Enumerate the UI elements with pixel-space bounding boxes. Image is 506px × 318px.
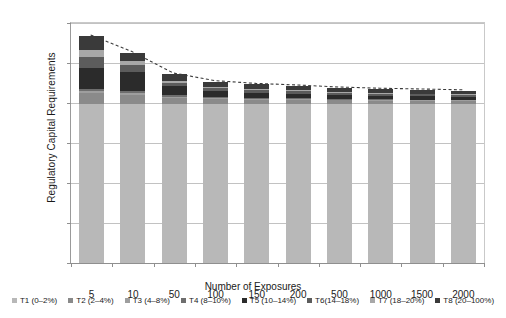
x-tick-mark xyxy=(443,263,444,267)
legend-label: T1 (0–2%) xyxy=(20,296,57,305)
legend-swatch-icon xyxy=(242,298,247,303)
bar-segment xyxy=(162,104,187,263)
legend-item[interactable]: T6(14–18%) xyxy=(307,296,359,305)
legend-swatch-icon xyxy=(370,298,375,303)
legend-item[interactable]: T3 (4–8%) xyxy=(125,296,170,305)
bar-segment xyxy=(327,104,352,263)
legend-item[interactable]: T7 (18–20%) xyxy=(370,296,424,305)
bar-segment xyxy=(203,104,228,263)
bar-segment xyxy=(286,104,311,263)
x-tick-mark xyxy=(112,263,113,267)
bar-segment xyxy=(162,74,187,81)
x-axis-title: Number of Exposures xyxy=(0,281,506,292)
bar-column[interactable] xyxy=(79,23,104,263)
x-tick-mark xyxy=(278,263,279,267)
x-tick-mark xyxy=(401,263,402,267)
bar-stack xyxy=(286,86,311,263)
bar-stack xyxy=(368,89,393,263)
x-tick-mark xyxy=(319,263,320,267)
bar-segment xyxy=(79,57,104,68)
x-tick-mark xyxy=(360,263,361,267)
bar-stack xyxy=(203,82,228,263)
y-tick-mark xyxy=(67,63,71,64)
legend-label: T7 (18–20%) xyxy=(378,296,424,305)
legend-label: T5 (10–14%) xyxy=(250,296,296,305)
bar-segment xyxy=(120,65,145,72)
x-tick-mark xyxy=(71,263,72,267)
plot-area: 0%2%4%6%8%10%12% 51050100150200500100015… xyxy=(70,22,485,263)
y-axis-title: Regulatory Capital Requirements xyxy=(46,3,57,253)
bar-segment xyxy=(368,104,393,263)
bar-column[interactable] xyxy=(120,23,145,263)
legend-swatch-icon xyxy=(181,298,186,303)
bar-stack xyxy=(120,53,145,263)
bar-stack xyxy=(451,91,476,263)
bar-column[interactable] xyxy=(203,23,228,263)
bar-stack xyxy=(162,74,187,263)
bar-segment xyxy=(79,104,104,263)
bar-segment xyxy=(79,68,104,89)
legend-swatch-icon xyxy=(125,298,130,303)
bar-segment xyxy=(120,72,145,91)
legend-item[interactable]: T2 (2–4%) xyxy=(68,296,113,305)
bar-segment xyxy=(451,104,476,263)
legend-swatch-icon xyxy=(307,298,312,303)
bar-column[interactable] xyxy=(410,23,435,263)
x-tick-mark xyxy=(195,263,196,267)
bar-segment xyxy=(120,53,145,61)
stacked-bar-chart: Regulatory Capital Requirements 0%2%4%6%… xyxy=(0,0,506,318)
x-tick-mark xyxy=(236,263,237,267)
bar-column[interactable] xyxy=(368,23,393,263)
bar-column[interactable] xyxy=(327,23,352,263)
bar-segment xyxy=(244,104,269,263)
bar-segment xyxy=(79,93,104,104)
bar-segment xyxy=(79,50,104,57)
bar-stack xyxy=(79,36,104,263)
legend-swatch-icon xyxy=(12,298,17,303)
y-tick-mark xyxy=(67,183,71,184)
bar-stack xyxy=(410,90,435,263)
bar-column[interactable] xyxy=(451,23,476,263)
bar-segment xyxy=(410,104,435,263)
bar-stack xyxy=(244,84,269,263)
bar-segment xyxy=(162,86,187,95)
bar-segment xyxy=(120,104,145,263)
legend-label: T8 (20–100%) xyxy=(443,296,494,305)
bar-segment xyxy=(120,95,145,104)
x-tick-mark xyxy=(154,263,155,267)
legend-item[interactable]: T1 (0–2%) xyxy=(12,296,57,305)
legend-swatch-icon xyxy=(68,298,73,303)
legend-item[interactable]: T5 (10–14%) xyxy=(242,296,296,305)
legend-label: T2 (2–4%) xyxy=(76,296,113,305)
bar-segment xyxy=(79,36,104,50)
legend-item[interactable]: T4 (8–10%) xyxy=(181,296,231,305)
legend: T1 (0–2%)T2 (2–4%)T3 (4–8%)T4 (8–10%)T5 … xyxy=(0,296,506,305)
bar-column[interactable] xyxy=(286,23,311,263)
bar-column[interactable] xyxy=(162,23,187,263)
y-tick-mark xyxy=(67,23,71,24)
legend-label: T4 (8–10%) xyxy=(189,296,231,305)
legend-swatch-icon xyxy=(435,298,440,303)
legend-item[interactable]: T8 (20–100%) xyxy=(435,296,494,305)
y-tick-mark xyxy=(67,103,71,104)
bar-stack xyxy=(327,88,352,263)
bar-column[interactable] xyxy=(244,23,269,263)
legend-label: T3 (4–8%) xyxy=(133,296,170,305)
legend-label: T6(14–18%) xyxy=(315,296,359,305)
x-tick-mark xyxy=(484,263,485,267)
y-tick-mark xyxy=(67,143,71,144)
y-tick-mark xyxy=(67,223,71,224)
